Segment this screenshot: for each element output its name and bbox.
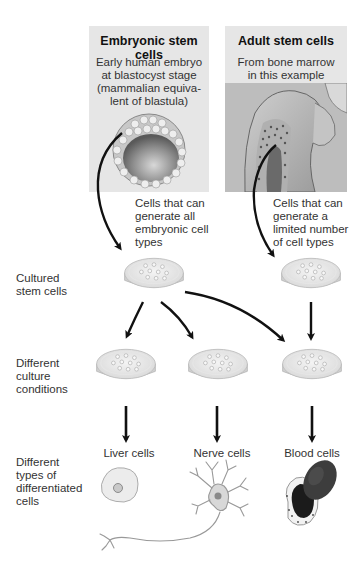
arrow-marrow-to-culture: [254, 145, 276, 255]
condition-dish-nerve: [189, 349, 248, 378]
arrow-to-liver-dish: [127, 302, 143, 336]
cultured-dish-embryonic: [125, 258, 184, 287]
arrow-embryo-to-culture: [98, 133, 122, 248]
blood-cells-icon: [286, 454, 343, 525]
arrow-to-blood-dish-from-embryonic: [185, 292, 283, 340]
condition-dish-blood: [283, 349, 342, 378]
diagram-graphics: [0, 0, 364, 576]
condition-dish-liver: [97, 349, 156, 378]
arrow-to-nerve-dish: [161, 302, 192, 337]
liver-cell-icon: [101, 468, 138, 502]
cultured-dish-adult: [282, 258, 341, 287]
